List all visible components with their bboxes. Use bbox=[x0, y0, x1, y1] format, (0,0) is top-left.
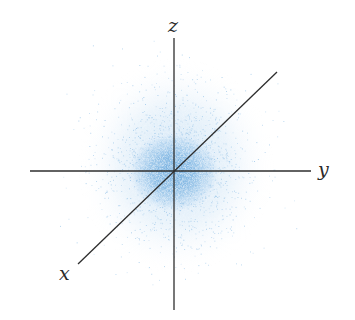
gaussian-point-cloud-diagram: z y x bbox=[0, 0, 355, 320]
point-cloud bbox=[78, 58, 274, 274]
z-axis-label: z bbox=[167, 14, 179, 36]
y-axis-label: y bbox=[317, 158, 329, 180]
x-axis-label: x bbox=[59, 262, 70, 284]
